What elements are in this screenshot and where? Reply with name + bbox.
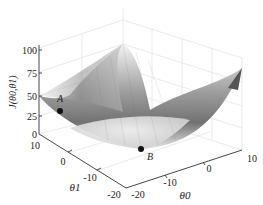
z-tick: 25	[27, 111, 37, 122]
z-tick: 75	[27, 68, 37, 79]
cost-surface	[39, 44, 242, 149]
theta0-axis-label: θ0	[180, 189, 191, 201]
z-tick: 100	[22, 45, 37, 56]
theta0-axis	[126, 150, 242, 188]
theta0-tick: 10	[247, 153, 257, 164]
z-axis-label: J(θ0,θ1)	[7, 75, 19, 109]
point-a: A	[56, 93, 64, 114]
z-tick: 0	[32, 129, 37, 140]
theta1-tick: -20	[107, 189, 120, 200]
theta1-axis-label: θ1	[70, 181, 81, 193]
theta0-tick: 0	[207, 163, 212, 174]
theta0-tick: -10	[163, 177, 176, 188]
point-a-label: A	[56, 93, 64, 104]
point-b-label: B	[147, 151, 153, 162]
theta0-tick: -20	[131, 189, 144, 200]
surface-plot: 100 75 50 25 0 10 0 -10 -20 -20 -10 0 10…	[0, 0, 263, 205]
theta1-tick: -10	[83, 172, 96, 183]
z-tick-labels: 100 75 50 25 0	[22, 45, 37, 140]
theta1-tick: 0	[61, 156, 66, 167]
z-tick: 50	[27, 91, 37, 102]
theta1-tick: 10	[30, 140, 40, 151]
